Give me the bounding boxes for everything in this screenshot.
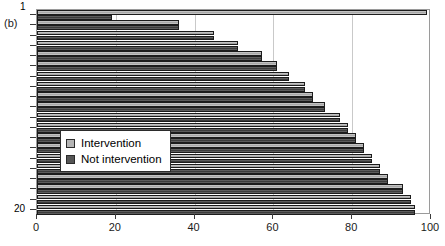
bar-intervention[interactable] <box>37 205 415 210</box>
x-tick-label-60: 60 <box>266 221 278 233</box>
x-tick-label-0: 0 <box>33 221 39 233</box>
legend-item-intervention: Intervention <box>66 135 162 151</box>
plot-area <box>36 9 430 214</box>
bar-row[interactable] <box>37 195 429 205</box>
bar-row[interactable] <box>37 72 429 82</box>
legend-swatch-intervention <box>66 139 75 148</box>
bar-row[interactable] <box>37 20 429 30</box>
y-axis-bottom-label: 20 <box>14 203 25 214</box>
bar-not-intervention[interactable] <box>37 107 325 112</box>
bar-intervention[interactable] <box>37 174 388 179</box>
bar-not-intervention[interactable] <box>37 36 214 41</box>
bar-intervention[interactable] <box>37 184 403 189</box>
chart-legend: Intervention Not intervention <box>60 130 171 172</box>
bar-intervention[interactable] <box>37 123 348 128</box>
x-tick-80 <box>351 214 352 219</box>
bar-row[interactable] <box>37 31 429 41</box>
panel-label: (b) <box>4 17 17 29</box>
x-tick-label-80: 80 <box>345 221 357 233</box>
legend-item-not-intervention: Not intervention <box>66 151 162 167</box>
bar-row[interactable] <box>37 61 429 71</box>
bar-not-intervention[interactable] <box>37 56 262 61</box>
x-tick-label-20: 20 <box>109 221 121 233</box>
y-axis-top-label: 1 <box>20 1 26 12</box>
bar-row[interactable] <box>37 10 429 20</box>
bar-intervention[interactable] <box>37 113 340 118</box>
x-tick-40 <box>194 214 195 219</box>
bar-intervention[interactable] <box>37 195 411 200</box>
legend-label-intervention: Intervention <box>81 137 141 149</box>
bar-row[interactable] <box>37 205 429 215</box>
bar-not-intervention[interactable] <box>37 118 340 123</box>
bar-row[interactable] <box>37 102 429 112</box>
bar-row[interactable] <box>37 113 429 123</box>
x-tick-label-40: 40 <box>187 221 199 233</box>
bar-intervention[interactable] <box>37 10 427 15</box>
bar-row[interactable] <box>37 92 429 102</box>
bar-not-intervention[interactable] <box>37 189 403 194</box>
bar-intervention[interactable] <box>37 51 262 56</box>
chart-figure: (b) 1 20 020406080100 Intervention Not i… <box>0 0 445 246</box>
bar-not-intervention[interactable] <box>37 15 112 20</box>
bar-not-intervention[interactable] <box>37 210 415 215</box>
bar-rows <box>37 10 429 213</box>
bar-not-intervention[interactable] <box>37 87 305 92</box>
bar-row[interactable] <box>37 82 429 92</box>
x-tick-label-100: 100 <box>421 221 439 233</box>
bar-not-intervention[interactable] <box>37 200 411 205</box>
bar-intervention[interactable] <box>37 102 325 107</box>
bar-row[interactable] <box>37 41 429 51</box>
bar-row[interactable] <box>37 51 429 61</box>
bar-intervention[interactable] <box>37 72 289 77</box>
bar-not-intervention[interactable] <box>37 77 289 82</box>
bar-row[interactable] <box>37 174 429 184</box>
bar-not-intervention[interactable] <box>37 66 277 71</box>
bar-not-intervention[interactable] <box>37 25 179 30</box>
bar-not-intervention[interactable] <box>37 179 388 184</box>
legend-label-not-intervention: Not intervention <box>81 153 162 165</box>
bar-not-intervention[interactable] <box>37 97 313 102</box>
x-tick-60 <box>272 214 273 219</box>
bar-not-intervention[interactable] <box>37 46 238 51</box>
bar-intervention[interactable] <box>37 82 305 87</box>
legend-swatch-not-intervention <box>66 155 75 164</box>
bar-row[interactable] <box>37 184 429 194</box>
x-tick-100 <box>430 214 431 219</box>
bar-intervention[interactable] <box>37 31 214 36</box>
x-tick-0 <box>36 214 37 219</box>
bar-intervention[interactable] <box>37 92 313 97</box>
bar-intervention[interactable] <box>37 41 238 46</box>
bar-intervention[interactable] <box>37 61 277 66</box>
x-tick-20 <box>115 214 116 219</box>
bar-intervention[interactable] <box>37 20 179 25</box>
